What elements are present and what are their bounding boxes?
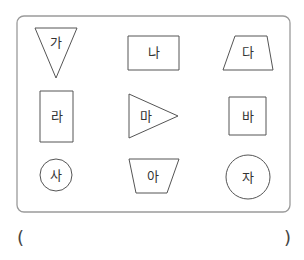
shape-classification-figure: 가나다라마바사아자 ( ) [0, 0, 304, 260]
shape-rectangle: 나 [128, 36, 179, 70]
answer-blank[interactable] [34, 226, 280, 250]
shape-label: 가 [50, 35, 62, 50]
shape-label: 마 [140, 109, 152, 124]
shape-square: 바 [229, 97, 266, 135]
shape-label: 사 [50, 168, 62, 183]
shape-label: 아 [147, 169, 159, 184]
shape-label: 다 [242, 45, 254, 60]
shape-label: 라 [51, 109, 63, 124]
answer-close-paren: ) [284, 227, 291, 248]
shape-label: 바 [242, 109, 254, 124]
shape-large-circle: 자 [226, 155, 270, 199]
shape-label: 나 [148, 45, 160, 60]
shape-label: 자 [242, 170, 254, 185]
shape-tall-rectangle: 라 [40, 91, 73, 142]
shape-small-circle: 사 [40, 159, 72, 191]
answer-open-paren: ( [17, 227, 24, 248]
